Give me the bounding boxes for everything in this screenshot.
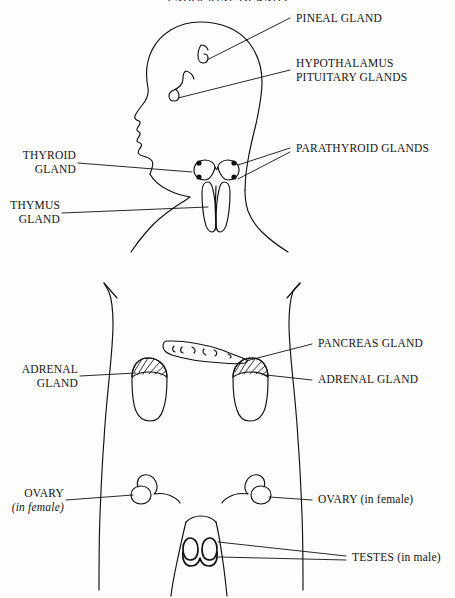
head-jaw-neck-line xyxy=(150,174,190,197)
label-ovary-left: OVARY (in female) xyxy=(0,486,64,514)
testis-left xyxy=(183,538,198,560)
parathyroid-dot-upper-left xyxy=(196,160,201,165)
neck-right-outline xyxy=(245,190,288,252)
torso-groin-arch xyxy=(186,516,216,522)
label-pancreas-gland: PANCREAS GLAND xyxy=(318,337,423,351)
label-ovary-left-line1: OVARY xyxy=(0,486,64,500)
label-parathyroid-glands: PARATHYROID GLANDS xyxy=(296,142,429,156)
leader-testes-upper xyxy=(218,542,346,556)
leader-pituitary xyxy=(178,70,290,98)
pineal-gland xyxy=(198,45,208,63)
label-hypothalamus-pituitary: HYPOTHALAMUS PITUITARY GLANDS xyxy=(296,56,407,84)
leader-thymus xyxy=(62,207,208,213)
label-thyroid-line1: THYROID xyxy=(0,148,76,162)
thyroid-isthmus xyxy=(215,167,218,169)
pancreas-gland-outline xyxy=(163,341,247,364)
pancreas-texture-6 xyxy=(228,354,231,358)
leader-thyroid xyxy=(78,163,192,172)
pancreas-texture-1 xyxy=(173,346,175,352)
label-thymus-line2: GLAND xyxy=(0,212,60,226)
label-ovary-left-line2: (in female) xyxy=(0,500,64,514)
leader-pancreas xyxy=(246,344,312,361)
pancreas-texture-5 xyxy=(214,350,217,356)
torso-right-shoulder xyxy=(289,283,303,590)
label-testes: TESTES (in male) xyxy=(352,551,441,565)
parathyroid-dot-upper-right xyxy=(231,160,236,165)
label-thyroid-gland: THYROID GLAND xyxy=(0,148,76,176)
pancreas-texture-4 xyxy=(203,349,206,355)
parathyroid-dot-lower-left xyxy=(196,174,201,179)
pancreas-texture-2 xyxy=(181,347,183,353)
left-ovary-body xyxy=(131,486,151,504)
torso-groin-right xyxy=(216,522,227,596)
label-adrenal-gland-left: ADRENAL GLAND xyxy=(0,362,78,390)
thymus-gland-right-lobe xyxy=(216,182,230,232)
label-thyroid-line2: GLAND xyxy=(0,162,76,176)
label-adrenal-left-line2: GLAND xyxy=(0,376,78,390)
label-thymus-line1: THYMUS xyxy=(0,198,60,212)
pituitary-gland xyxy=(169,71,194,101)
label-adrenal-left-line1: ADRENAL xyxy=(0,362,78,376)
label-pituitary-glands: PITUITARY GLANDS xyxy=(296,70,407,84)
leader-ovary-right xyxy=(269,497,312,500)
label-adrenal-gland-right: ADRENAL GLAND xyxy=(318,373,418,387)
label-pineal-gland: PINEAL GLAND xyxy=(296,12,382,26)
pancreas-texture-3 xyxy=(192,347,195,353)
left-fallopian-tube xyxy=(137,475,180,503)
torso-left-shoulder xyxy=(99,283,113,590)
leader-adrenal-left xyxy=(80,373,136,376)
neck-left-outline xyxy=(131,197,190,252)
torso-right-shoulder-tip xyxy=(287,283,300,298)
leader-lines xyxy=(62,18,346,560)
leader-adrenal-right xyxy=(266,375,312,380)
label-hypothalamus: HYPOTHALAMUS xyxy=(296,56,407,70)
right-fallopian-tube xyxy=(222,475,265,503)
parathyroid-dot-lower-right xyxy=(231,174,236,179)
leader-ovary-left xyxy=(66,495,133,500)
endocrine-glands-diagram: ENDOCRINE GLANDS xyxy=(0,0,455,598)
label-ovary-right: OVARY (in female) xyxy=(318,493,413,507)
right-ovary-body xyxy=(251,486,271,504)
right-adrenal-hatching xyxy=(235,358,267,375)
testis-right xyxy=(202,538,217,560)
leader-testes-lower xyxy=(218,557,346,560)
label-thymus-gland: THYMUS GLAND xyxy=(0,198,60,226)
anatomy-illustration xyxy=(0,0,455,598)
